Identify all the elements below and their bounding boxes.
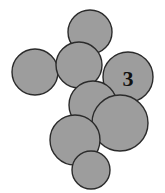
labeled-circle-label: 3	[123, 66, 134, 91]
circle-labels-group: 3	[123, 66, 134, 91]
circle-packing-canvas: 3	[0, 0, 165, 193]
left-circle	[12, 49, 58, 95]
circle-packing-figure: 3	[0, 0, 165, 193]
bottom-circle	[72, 151, 110, 189]
